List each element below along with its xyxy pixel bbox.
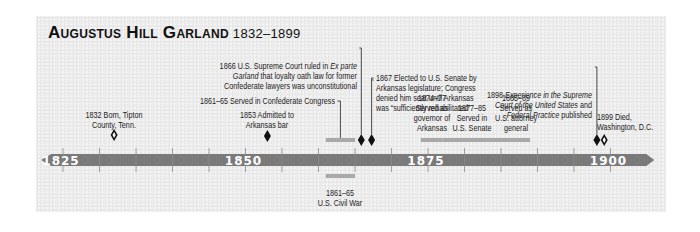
- event-label-1899: 1899 Died,Washington, D.C.: [597, 113, 653, 133]
- timeline-axis: [41, 154, 654, 166]
- axis-year-label: 1850: [225, 154, 262, 168]
- event-label-1866: 1866 U.S. Supreme Court ruled in Ex part…: [181, 62, 357, 92]
- solid-diamond-icon: [593, 134, 600, 146]
- axis-year-label: 1900: [590, 154, 627, 168]
- event-label-1853: 1853 Admitted toArkansas bar: [179, 111, 355, 131]
- span-bar: [501, 138, 530, 142]
- event-label-1832: 1832 Born, TiptonCounty, Tenn.: [26, 111, 202, 131]
- axis-year-label: 1875: [407, 154, 444, 168]
- span-label-civil-war: 1861–65U.S. Civil War: [252, 189, 428, 209]
- solid-diamond-icon: [264, 130, 271, 142]
- axis-year-label: 1825: [42, 154, 79, 168]
- span-bar: [421, 138, 443, 142]
- span-bar: [443, 138, 501, 142]
- span-bar: [326, 174, 355, 178]
- span-bar: [326, 138, 355, 142]
- span-label-attorney-general: 1885–89Served asU.S. attorneygeneral: [428, 94, 604, 134]
- span-label-confederate-congress: 1861–65 Served in Confederate Congress: [159, 97, 335, 107]
- solid-diamond-icon: [368, 134, 375, 146]
- solid-diamond-icon: [358, 134, 365, 146]
